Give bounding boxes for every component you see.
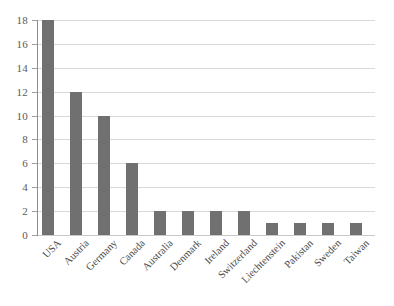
gridline-8 — [37, 139, 375, 140]
y-tick-label-8: 8 — [4, 134, 28, 145]
x-label-sweden: Sweden — [312, 238, 343, 269]
y-tick-label-18: 18 — [4, 15, 28, 26]
bar-sweden — [322, 223, 334, 235]
y-tick-label-2: 2 — [4, 206, 28, 217]
x-label-usa: USA — [41, 238, 63, 260]
y-tick-label-4: 4 — [4, 182, 28, 193]
y-tick-label-16: 16 — [4, 39, 28, 50]
gridline-18 — [37, 20, 375, 21]
bar-germany — [98, 116, 110, 235]
x-label-taiwan: Taiwan — [342, 238, 371, 267]
x-label-pakistan: Pakistan — [283, 238, 316, 271]
gridline-12 — [37, 92, 375, 93]
gridline-6 — [37, 163, 375, 164]
gridline-2 — [37, 211, 375, 212]
bar-ireland — [210, 211, 222, 235]
bar-australia — [154, 211, 166, 235]
y-tick-label-14: 14 — [4, 63, 28, 74]
gridline-16 — [37, 44, 375, 45]
bar-usa — [42, 20, 54, 235]
gridline-0 — [37, 235, 375, 236]
bar-taiwan — [350, 223, 362, 235]
bar-pakistan — [294, 223, 306, 235]
bar-switzerland — [238, 211, 250, 235]
plot-area — [37, 20, 375, 235]
x-axis-category-labels: USAAustriaGermanyCanadaAustraliaDenmarkI… — [37, 238, 387, 306]
bar-denmark — [182, 211, 194, 235]
y-axis-line — [37, 20, 38, 236]
bar-liechtenstein — [266, 223, 278, 235]
y-tick-label-10: 10 — [4, 111, 28, 122]
bar-chart: 024681012141618 USAAustriaGermanyCanadaA… — [0, 0, 394, 306]
gridline-14 — [37, 68, 375, 69]
y-tick-label-12: 12 — [4, 87, 28, 98]
bar-canada — [126, 163, 138, 235]
gridline-10 — [37, 116, 375, 117]
y-tick-label-6: 6 — [4, 158, 28, 169]
gridline-4 — [37, 187, 375, 188]
y-tick-label-0: 0 — [4, 230, 28, 241]
bar-austria — [70, 92, 82, 235]
